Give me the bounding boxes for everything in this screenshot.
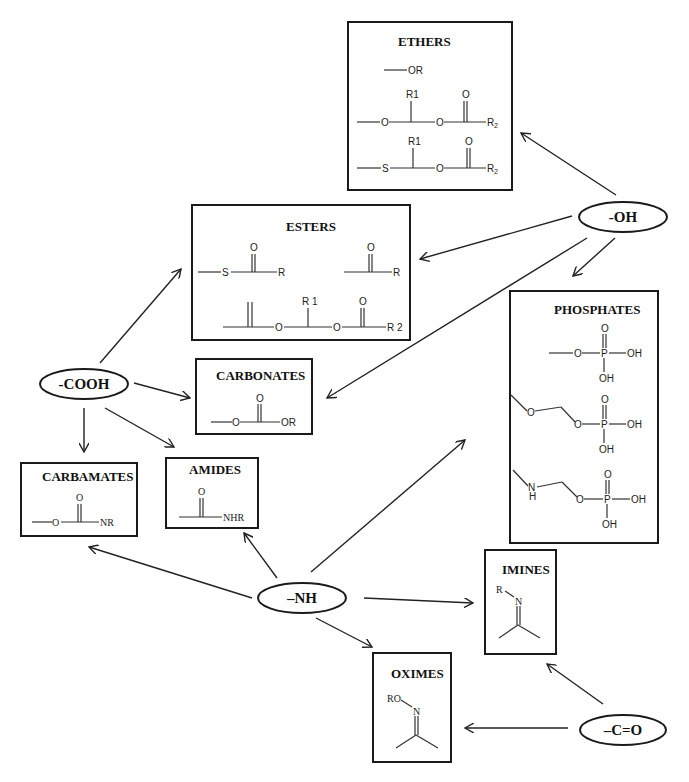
arrow-co-imines <box>547 664 603 704</box>
group-carbonates: CARBONATES O O OR <box>196 359 312 434</box>
svg-text:O: O <box>52 517 59 528</box>
svg-text:O: O <box>465 136 473 147</box>
node-cooh: -COOH <box>40 369 128 399</box>
svg-text:OH: OH <box>599 444 614 455</box>
arrow-oh-ethers <box>521 133 616 195</box>
svg-text:O: O <box>198 486 205 497</box>
arrow-nh-oximes <box>316 618 372 647</box>
svg-text:O: O <box>601 323 609 334</box>
group-amides: AMIDES O NHR <box>166 458 258 528</box>
imines-title: IMINES <box>502 562 550 577</box>
svg-text:NHR: NHR <box>223 512 244 523</box>
arrow-cooh-esters <box>100 269 181 363</box>
svg-text:R1: R1 <box>406 89 419 100</box>
arrow-oh-phosphates <box>573 238 615 276</box>
svg-text:O: O <box>232 417 240 428</box>
svg-text:N: N <box>515 596 522 607</box>
svg-text:O: O <box>601 394 609 405</box>
svg-text:O: O <box>76 492 83 503</box>
node-co: –C=O <box>580 715 666 745</box>
svg-text:P: P <box>601 348 608 359</box>
arrow-nh-carbamates <box>89 547 252 598</box>
group-ethers: ETHERS OR O R1 O O R 2 S R1 O O R 2 <box>348 22 512 190</box>
arrow-nh-amides <box>244 533 277 578</box>
svg-text:O: O <box>436 163 444 174</box>
svg-text:R 1: R 1 <box>302 296 318 307</box>
svg-text:R1: R1 <box>408 136 421 147</box>
svg-text:S: S <box>382 163 389 174</box>
svg-text:O: O <box>574 348 582 359</box>
svg-text:O: O <box>333 322 341 333</box>
arrow-nh-imines <box>364 598 473 603</box>
arrow-cooh-carbonates <box>134 383 190 398</box>
svg-text:R: R <box>393 267 400 278</box>
group-imines: IMINES R N <box>485 550 556 654</box>
svg-text:OH: OH <box>627 348 642 359</box>
node-oh: -OH <box>579 202 667 232</box>
functional-groups-diagram: ETHERS OR O R1 O O R 2 S R1 O O R 2 ESTE… <box>0 0 689 782</box>
group-esters: ESTERS S O R O R O R 1 O O R 2 <box>192 205 410 340</box>
cooh-label: -COOH <box>59 376 110 392</box>
phosphates-title: PHOSPHATES <box>554 302 640 317</box>
svg-text:OH: OH <box>599 373 614 384</box>
co-label: –C=O <box>603 722 643 738</box>
group-phosphates: PHOSPHATES O P O OH OH O O P O OH OH N H… <box>510 291 658 543</box>
ethers-title: ETHERS <box>398 34 451 49</box>
group-oximes: OXIMES RO N <box>373 653 451 762</box>
esters-title: ESTERS <box>286 219 336 234</box>
svg-text:OH: OH <box>627 419 642 430</box>
svg-text:O: O <box>527 407 535 418</box>
node-nh: –NH <box>258 583 346 613</box>
svg-text:O: O <box>359 296 367 307</box>
carbonates-title: CARBONATES <box>216 368 305 383</box>
arrow-cooh-amides <box>105 408 174 447</box>
svg-text:H: H <box>529 491 536 502</box>
svg-text:P: P <box>601 419 608 430</box>
amides-title: AMIDES <box>189 462 241 477</box>
svg-text:P: P <box>604 494 611 505</box>
svg-text:2: 2 <box>494 122 498 129</box>
svg-text:RO: RO <box>387 693 401 704</box>
svg-text:O: O <box>436 117 444 128</box>
svg-text:OH: OH <box>631 494 646 505</box>
svg-text:OR: OR <box>281 417 296 428</box>
svg-text:O: O <box>462 89 470 100</box>
svg-text:S: S <box>222 267 229 278</box>
arrow-nh-phosphates <box>311 440 465 572</box>
oximes-title: OXIMES <box>391 666 444 681</box>
svg-text:2: 2 <box>494 168 498 175</box>
svg-text:N: N <box>413 706 420 717</box>
svg-text:NR: NR <box>100 517 114 528</box>
svg-text:O: O <box>381 117 389 128</box>
svg-text:OH: OH <box>602 519 617 530</box>
group-carbamates: CARBAMATES O O NR <box>21 463 137 536</box>
svg-text:O: O <box>256 393 264 404</box>
oh-label: -OH <box>609 209 638 225</box>
svg-text:O: O <box>574 419 582 430</box>
svg-text:R: R <box>496 584 503 595</box>
nh-label: –NH <box>286 590 317 606</box>
carbamates-title: CARBAMATES <box>42 469 134 484</box>
svg-text:O: O <box>275 322 283 333</box>
svg-text:O: O <box>576 494 584 505</box>
svg-text:O: O <box>367 242 375 253</box>
atom-label: OR <box>408 65 423 76</box>
svg-text:R: R <box>278 267 285 278</box>
svg-text:O: O <box>604 469 612 480</box>
svg-text:R 2: R 2 <box>387 322 403 333</box>
svg-text:O: O <box>250 242 258 253</box>
arrow-oh-esters <box>420 216 572 259</box>
